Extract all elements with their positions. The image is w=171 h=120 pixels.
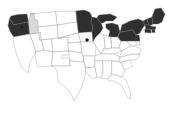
state-NM[interactable] [52,51,70,66]
map-canvas [0,0,171,120]
point-marker-idaho[interactable] [20,25,23,28]
state-TN[interactable] [95,54,120,61]
us-choropleth-map [0,0,171,120]
state-CO[interactable] [52,38,69,53]
state-MN[interactable] [76,10,93,33]
state-AZ[interactable] [36,50,53,67]
point-marker-midwest[interactable] [85,38,88,41]
state-MO[interactable] [81,42,96,56]
state-CT[interactable] [145,29,151,33]
state-RI[interactable] [152,30,155,33]
state-AR[interactable] [84,56,95,68]
state-IN[interactable] [104,35,112,49]
